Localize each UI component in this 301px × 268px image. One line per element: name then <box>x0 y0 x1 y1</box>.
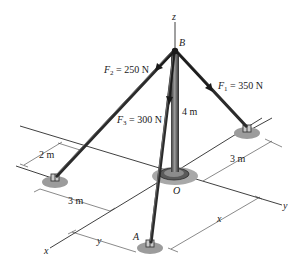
dim-y-label: y <box>96 235 102 246</box>
dim-3m-right-label: 3 m <box>230 153 246 164</box>
x-axis-label: x <box>43 245 49 256</box>
dim-x-label: x <box>216 213 222 224</box>
point-b-label: B <box>179 37 185 48</box>
force-f3-label: F3 = 300 N <box>116 114 162 127</box>
dim-x <box>168 196 262 252</box>
cable-f3 <box>150 54 174 242</box>
arrow-f1 <box>177 52 213 92</box>
point-a-label: A <box>132 231 140 242</box>
dim-pole-height-label: 4 m <box>182 106 198 117</box>
y-axis-label: y <box>282 200 288 211</box>
joint-b <box>172 48 178 54</box>
dim-3m-left-label: 3 m <box>68 195 84 206</box>
force-f1-label: F1 = 350 N <box>217 80 263 93</box>
z-axis-label: z <box>171 11 176 22</box>
force-f2-label: F2 = 250 N <box>103 64 149 77</box>
pole-cable-diagram: z B O A y x F2 = 250 N F1 = 350 N F3 = 3… <box>0 0 301 268</box>
back-ground-line <box>175 118 272 172</box>
dim-2m-label: 2 m <box>39 149 55 160</box>
dim-y <box>68 230 136 252</box>
point-o-label: O <box>173 185 180 196</box>
